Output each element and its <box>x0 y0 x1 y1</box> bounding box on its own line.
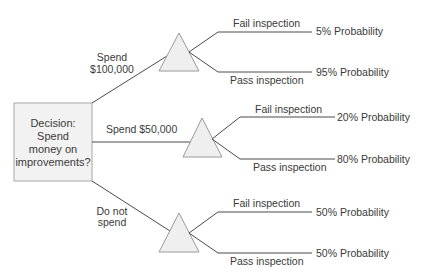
decision-text-line: Spend <box>37 130 69 142</box>
outcome-probability-fail: 20% Probability <box>337 111 411 123</box>
chance-node-triangle <box>159 213 199 252</box>
outcome-branch-fail <box>189 32 312 52</box>
option-spend-100000: Spend $100,000 Fail inspection 5% Probab… <box>90 17 390 103</box>
decision-text-line: improvements? <box>15 156 90 168</box>
outcome-label-fail: Fail inspection <box>255 103 322 115</box>
outcome-branch-fail <box>189 212 312 233</box>
chance-node-triangle <box>183 118 222 157</box>
decision-tree-diagram: Decision: Spend money on improvements? S… <box>0 0 421 277</box>
option-label: Spend <box>97 51 128 63</box>
outcome-branch-pass <box>189 52 312 72</box>
outcome-branch-pass <box>189 233 312 253</box>
outcome-probability-fail: 50% Probability <box>316 206 390 218</box>
outcome-label-fail: Fail inspection <box>233 197 300 209</box>
option-do-not-spend: Do not spend Fail inspection 50% Probabi… <box>92 181 390 267</box>
decision-box <box>14 103 92 181</box>
outcome-label-pass: Pass inspection <box>230 255 304 267</box>
outcome-probability-pass: 50% Probability <box>316 247 390 259</box>
outcome-label-fail: Fail inspection <box>233 17 300 29</box>
decision-tree-svg: Decision: Spend money on improvements? S… <box>0 0 421 277</box>
outcome-branch-pass <box>212 139 335 159</box>
decision-node: Decision: Spend money on improvements? <box>14 103 92 181</box>
decision-text-line: Decision: <box>30 117 75 129</box>
option-label: $100,000 <box>90 63 134 75</box>
option-label: Spend $50,000 <box>106 123 177 135</box>
option-label: spend <box>98 216 127 228</box>
option-spend-50000: Spend $50,000 Fail inspection 20% Probab… <box>92 103 411 173</box>
decision-text-line: money on <box>29 143 77 155</box>
outcome-label-pass: Pass inspection <box>253 161 327 173</box>
outcome-probability-pass: 95% Probability <box>316 66 390 78</box>
outcome-probability-pass: 80% Probability <box>337 153 411 165</box>
outcome-branch-fail <box>212 117 335 139</box>
chance-node-triangle <box>159 33 199 71</box>
outcome-label-pass: Pass inspection <box>230 74 304 86</box>
outcome-probability-fail: 5% Probability <box>316 25 384 37</box>
